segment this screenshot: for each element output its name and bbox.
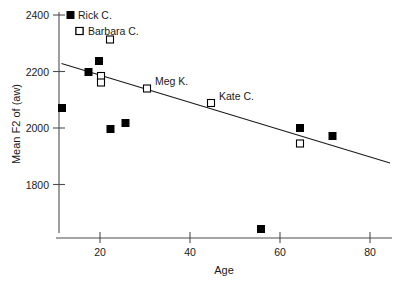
annotation-label-barbara: Barbara C. — [88, 25, 139, 37]
data-point-filled — [85, 69, 92, 76]
annotation-barbara: Barbara C. — [76, 25, 139, 37]
y-tick-label-2000: 2000 — [26, 122, 50, 134]
x-tick-label-60: 60 — [274, 246, 286, 258]
data-point-open — [98, 79, 105, 86]
y-axis-title: Mean F2 of (aw) — [10, 84, 22, 164]
y-tick-label-2200: 2200 — [26, 66, 50, 78]
data-point-open — [208, 100, 215, 107]
chart-canvas: 2400 2200 2000 1800 20 40 60 80 Age Mean… — [0, 0, 400, 283]
data-point-filled — [96, 58, 103, 65]
x-tick-label-80: 80 — [364, 246, 376, 258]
data-point-filled — [107, 126, 114, 133]
annotation-label-meg: Meg K. — [155, 75, 188, 87]
data-point-open — [98, 73, 105, 80]
annotation-label-rick: Rick C. — [78, 9, 112, 21]
data-point-open — [144, 85, 151, 92]
x-tick-label-40: 40 — [184, 246, 196, 258]
scatter-chart-figure: 2400 2200 2000 1800 20 40 60 80 Age Mean… — [0, 0, 400, 283]
legend-marker-filled-square — [67, 12, 74, 19]
x-tick-label-20: 20 — [94, 246, 106, 258]
trend-line — [62, 64, 391, 164]
x-axis-title: Age — [214, 264, 234, 276]
data-point-filled — [329, 133, 336, 140]
y-axis-tick-labels: 2400 2200 2000 1800 — [26, 9, 50, 191]
data-point-filled — [258, 226, 265, 233]
data-point-filled — [297, 125, 304, 132]
data-point-open — [297, 140, 304, 147]
x-axis-tick-labels: 20 40 60 80 — [94, 246, 376, 258]
annotation-label-kate: Kate C. — [219, 90, 254, 102]
annotation-rick: Rick C. — [67, 9, 112, 21]
data-point-filled — [122, 120, 129, 127]
data-point-open — [107, 36, 114, 43]
y-tick-label-2400: 2400 — [26, 9, 50, 21]
legend-marker-open-square — [76, 28, 83, 35]
y-tick-label-1800: 1800 — [26, 179, 50, 191]
data-point-filled — [59, 105, 66, 112]
